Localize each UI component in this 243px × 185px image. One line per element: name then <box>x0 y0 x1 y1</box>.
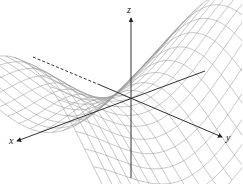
mesh-line <box>102 53 242 184</box>
mesh-line <box>76 21 242 154</box>
mesh-line <box>67 12 242 140</box>
surface-wireframe <box>0 0 242 184</box>
mesh-line <box>107 47 242 134</box>
y-axis <box>100 85 222 137</box>
y-axis-label: y <box>226 133 230 143</box>
mesh-line <box>129 18 242 98</box>
mesh-line <box>0 69 133 185</box>
mesh-line <box>0 29 177 116</box>
mesh-line <box>151 0 242 63</box>
axes <box>17 18 222 178</box>
mesh-line <box>0 56 111 184</box>
mesh-line <box>0 59 151 133</box>
surface-plot <box>0 0 242 184</box>
mesh-line <box>50 0 243 115</box>
z-axis-label: z <box>127 5 131 15</box>
x-axis-label: x <box>9 136 13 146</box>
mesh-line <box>41 0 239 107</box>
mesh-line <box>0 10 195 104</box>
